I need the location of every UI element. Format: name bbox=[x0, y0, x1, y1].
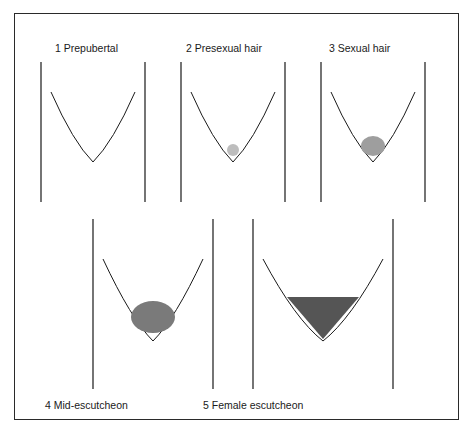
stage-3-label: 3 Sexual hair bbox=[329, 42, 390, 54]
density-marker bbox=[287, 297, 359, 339]
stage-3-schematic bbox=[313, 62, 433, 202]
density-marker bbox=[361, 136, 385, 156]
stage-5-schematic bbox=[243, 219, 403, 389]
density-marker bbox=[227, 144, 239, 156]
stage-1-label: 1 Prepubertal bbox=[55, 42, 118, 54]
stage-4-label: 4 Mid-escutcheon bbox=[45, 399, 128, 411]
stage-2-label: 2 Presexual hair bbox=[186, 42, 262, 54]
figure-frame: 1 Prepubertal 2 Presexual hair 3 Sexual … bbox=[14, 13, 459, 420]
stage-1-schematic bbox=[33, 62, 153, 202]
stage-2-schematic bbox=[173, 62, 293, 202]
density-marker bbox=[131, 301, 175, 333]
stage-4-schematic bbox=[83, 219, 223, 389]
stage-5-label: 5 Female escutcheon bbox=[203, 399, 303, 411]
